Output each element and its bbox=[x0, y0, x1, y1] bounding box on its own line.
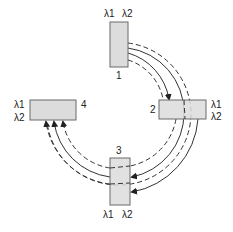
node-3: 3 λ1 λ2 bbox=[103, 145, 133, 220]
node-3-label: 3 bbox=[116, 145, 122, 156]
node-2-lambda1-label: λ1 bbox=[211, 99, 222, 110]
arc-3-to-4-dashed-inner bbox=[63, 122, 110, 168]
node-3-lambda1-label: λ1 bbox=[103, 209, 114, 220]
node-2-lambda2-label: λ2 bbox=[211, 111, 222, 122]
node-4-lambda2-label: λ2 bbox=[14, 112, 25, 123]
arc-1-to-2-dashed bbox=[128, 60, 163, 99]
node-2: 2 λ1 λ2 bbox=[150, 99, 222, 122]
node-1-lambda2-label: λ2 bbox=[122, 8, 133, 19]
node-3-lambda2-label: λ2 bbox=[122, 209, 133, 220]
arc-3-to-4-solid bbox=[54, 122, 110, 177]
ring-network-diagram: λ1 λ2 1 2 λ1 λ2 3 λ1 λ2 λ1 λ2 4 bbox=[0, 0, 233, 232]
arc-2-to-3-dashed bbox=[130, 119, 176, 166]
arc-1-to-2-solid bbox=[128, 53, 169, 99]
node-4: λ1 λ2 4 bbox=[14, 99, 87, 123]
node-4-lambda1-label: λ1 bbox=[14, 99, 25, 110]
node-1: λ1 λ2 1 bbox=[104, 8, 133, 81]
node-4-label: 4 bbox=[81, 99, 87, 110]
node-1-lambda1-label: λ1 bbox=[104, 8, 115, 19]
node-1-box bbox=[110, 22, 128, 67]
node-2-box bbox=[159, 100, 206, 119]
node-3-box bbox=[110, 158, 130, 205]
node-1-label: 1 bbox=[116, 70, 122, 81]
node-2-label: 2 bbox=[150, 104, 156, 115]
node-4-box bbox=[30, 100, 76, 120]
